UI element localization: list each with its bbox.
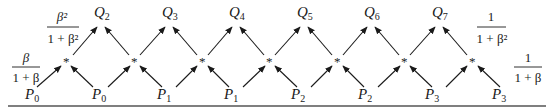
weight-left-upper: β² 1 + β² bbox=[47, 9, 79, 46]
top-labels: Q2 Q3 Q4 Q5 Q6 Q7 bbox=[94, 4, 448, 22]
svg-text:1 + β: 1 + β bbox=[515, 70, 542, 85]
node-p0-b: P0 bbox=[91, 86, 106, 104]
weight-right-upper: 1 1 + β² bbox=[477, 9, 508, 46]
star-node: * bbox=[469, 54, 476, 69]
node-q3: Q3 bbox=[162, 4, 178, 22]
node-p3-b: P3 bbox=[491, 86, 506, 104]
svg-text:β: β bbox=[22, 50, 30, 65]
node-p3-a: P3 bbox=[424, 86, 439, 104]
star-node: * bbox=[401, 54, 408, 69]
star-node: * bbox=[334, 54, 341, 69]
svg-text:1 + β²: 1 + β² bbox=[477, 31, 508, 46]
svg-text:1: 1 bbox=[525, 50, 532, 65]
weight-right-lower: 1 1 + β bbox=[514, 50, 542, 85]
star-node: * bbox=[266, 54, 273, 69]
star-node: * bbox=[131, 54, 138, 69]
butterfly-diagram: * * * * * * * Q2 Q3 Q4 Q5 Q6 Q7 P0 P0 P1… bbox=[0, 0, 551, 111]
star-node: * bbox=[63, 54, 70, 69]
bottom-labels: P0 P0 P1 P1 P2 P2 P3 P3 bbox=[24, 86, 506, 104]
node-p1-a: P1 bbox=[156, 86, 171, 104]
star-nodes: * * * * * * * bbox=[63, 54, 476, 69]
node-q7: Q7 bbox=[432, 4, 448, 22]
svg-text:1: 1 bbox=[488, 9, 495, 24]
node-p2-b: P2 bbox=[357, 86, 372, 104]
node-p1-b: P1 bbox=[223, 86, 238, 104]
star-node: * bbox=[199, 54, 206, 69]
lower-edges bbox=[37, 66, 500, 87]
svg-text:β²: β² bbox=[56, 9, 68, 24]
node-q6: Q6 bbox=[364, 4, 380, 22]
node-q4: Q4 bbox=[229, 4, 245, 22]
weight-left-lower: β 1 + β bbox=[12, 50, 40, 85]
node-q5: Q5 bbox=[297, 4, 313, 22]
node-p2-a: P2 bbox=[290, 86, 305, 104]
svg-text:1 + β²: 1 + β² bbox=[48, 31, 79, 46]
svg-text:1 + β: 1 + β bbox=[13, 70, 40, 85]
node-p0-a: P0 bbox=[24, 86, 39, 104]
upper-edges bbox=[73, 27, 467, 55]
node-q2: Q2 bbox=[94, 4, 110, 22]
